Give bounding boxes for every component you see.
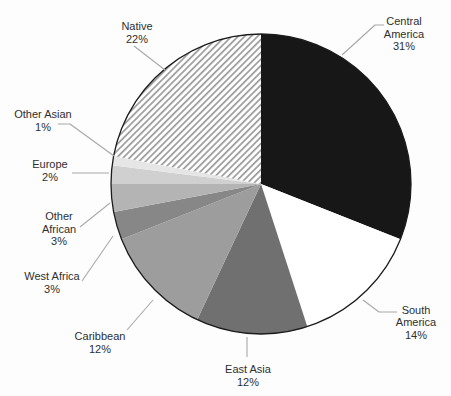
slice-label-line: East Asia [225, 363, 272, 375]
pie-chart-figure: CentralAmerica31%SouthAmerica14%East Asi… [0, 0, 451, 396]
slice-label-line: America [384, 28, 425, 40]
slice-label-caribbean: Caribbean12% [75, 330, 126, 355]
slice-label-line: Caribbean [75, 330, 126, 342]
leader-line-other-african [80, 203, 110, 227]
slice-label-line: 12% [237, 376, 259, 388]
slice-label-line: West Africa [24, 270, 80, 282]
slice-label-central-america: CentralAmerica31% [384, 15, 425, 52]
slice-label-line: 31% [393, 40, 415, 52]
leader-line-other-asian [58, 124, 114, 156]
slice-label-line: South [402, 304, 431, 316]
leader-line-west-africa [82, 236, 113, 281]
slice-label-line: 14% [405, 329, 427, 341]
slice-label-line: 2% [42, 171, 58, 183]
slice-label-line: Other Asian [14, 108, 71, 120]
slice-label-west-africa: West Africa3% [24, 270, 80, 295]
slice-label-line: 1% [35, 121, 51, 133]
leader-line-caribbean [127, 300, 153, 330]
pie-chart: CentralAmerica31%SouthAmerica14%East Asi… [0, 0, 451, 396]
leader-line-south-america [363, 300, 397, 312]
leader-line-native [134, 46, 165, 70]
slice-label-line: Other [45, 210, 73, 222]
slice-label-europe: Europe2% [32, 158, 67, 183]
slice-label-line: 12% [89, 343, 111, 355]
slice-label-east-asia: East Asia12% [225, 363, 272, 388]
slice-label-line: 3% [44, 283, 60, 295]
slice-label-line: Native [121, 20, 152, 32]
slice-label-south-america: SouthAmerica14% [396, 304, 437, 341]
slice-label-native: Native22% [121, 20, 152, 45]
slice-label-other-african: OtherAfrican3% [42, 210, 76, 247]
slice-label-line: Europe [32, 158, 67, 170]
slice-label-line: 3% [51, 235, 67, 247]
slice-label-other-asian: Other Asian1% [14, 108, 71, 133]
leader-line-central-america [342, 25, 384, 55]
slice-label-line: 22% [126, 33, 148, 45]
slice-label-line: African [42, 223, 76, 235]
slice-label-line: America [396, 316, 437, 328]
slice-label-line: Central [386, 15, 421, 27]
